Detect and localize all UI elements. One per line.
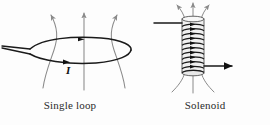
solenoid-cylinder	[182, 19, 204, 73]
solenoid-top-cap	[182, 16, 204, 22]
caption-single-loop: Single loop	[0, 99, 140, 111]
field-line-left	[43, 15, 57, 88]
current-loop	[30, 37, 131, 63]
field-line-bottom-right	[201, 72, 214, 92]
field-lines-group	[43, 13, 125, 90]
single-loop-diagram	[0, 0, 140, 98]
field-line-bottom-left	[172, 72, 185, 92]
field-line-right	[111, 15, 125, 88]
panel-single-loop: I Single loop	[0, 0, 140, 125]
solenoid-diagram	[140, 0, 270, 98]
physics-figure: I Single loop	[0, 0, 270, 125]
current-label-single-loop: I	[66, 64, 70, 76]
caption-solenoid: Solenoid	[140, 99, 270, 111]
current-arrowheads-group	[63, 38, 85, 65]
lead-wires-group	[2, 46, 30, 54]
panel-solenoid: I Solenoid	[140, 0, 270, 125]
